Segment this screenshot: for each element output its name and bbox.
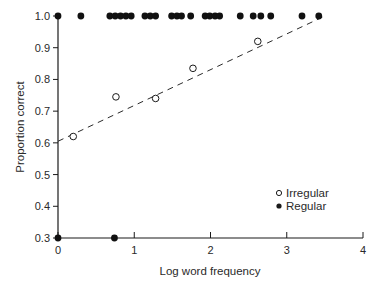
data-points [55, 13, 323, 242]
regular-point [237, 13, 244, 20]
y-axis-title: Proportion correct [14, 80, 26, 172]
irregular-point [113, 94, 120, 101]
irregular-point [152, 95, 159, 102]
legend-regular-label: Regular [286, 200, 326, 212]
regular-point [178, 13, 185, 20]
x-tick-label: 4 [360, 244, 366, 256]
x-tick-label: 2 [207, 244, 213, 256]
regular-point [315, 13, 322, 20]
x-axis-title: Log word frequency [159, 265, 260, 277]
y-tick-label: 0.3 [35, 232, 50, 244]
y-tick-label: 0.9 [35, 42, 50, 54]
legend-irregular-label: Irregular [286, 187, 329, 199]
legend: Irregular Regular [276, 187, 329, 212]
x-axis: 01234 [55, 232, 366, 256]
x-tick-label: 0 [55, 244, 61, 256]
regular-point [152, 13, 159, 20]
trend-line [58, 16, 325, 141]
regular-point [299, 13, 306, 20]
irregular-point [190, 65, 197, 72]
regular-point [216, 13, 223, 20]
scatter-chart: 0.30.40.50.60.70.80.91.0 01234 Log word … [0, 0, 374, 289]
regular-point [187, 13, 194, 20]
regular-point [267, 13, 274, 20]
regular-point [55, 13, 62, 20]
y-tick-label: 0.6 [35, 137, 50, 149]
regular-point [128, 13, 135, 20]
regular-point [111, 235, 118, 242]
y-axis: 0.30.40.50.60.70.80.91.0 [35, 10, 58, 244]
regular-point [77, 13, 84, 20]
regular-point [55, 235, 62, 242]
irregular-point [70, 133, 77, 140]
legend-irregular-marker-icon [276, 190, 281, 195]
x-tick-label: 3 [284, 244, 290, 256]
y-tick-label: 0.4 [35, 200, 50, 212]
irregular-point [254, 38, 261, 45]
y-tick-label: 0.5 [35, 169, 50, 181]
legend-regular-marker-icon [276, 203, 281, 208]
y-tick-label: 0.7 [35, 105, 50, 117]
y-tick-label: 0.8 [35, 73, 50, 85]
regular-point [257, 13, 264, 20]
x-tick-label: 1 [131, 244, 137, 256]
regular-point [250, 13, 257, 20]
y-tick-label: 1.0 [35, 10, 50, 22]
